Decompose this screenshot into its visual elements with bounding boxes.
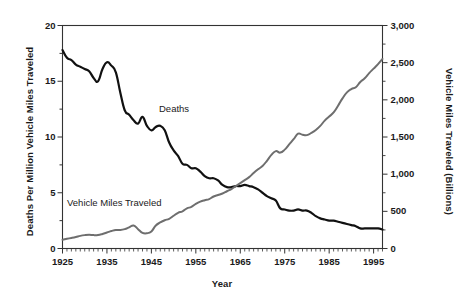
x-tick-1935: 1935	[87, 256, 127, 267]
y-right-tick-1000: 1,000	[391, 168, 431, 179]
x-tick-1995: 1995	[354, 256, 394, 267]
x-tick-1985: 1985	[309, 256, 349, 267]
y-left-tick-20: 20	[22, 20, 56, 31]
x-tick-1975: 1975	[265, 256, 305, 267]
y-left-tick-10: 10	[22, 131, 56, 142]
series-line-deaths	[63, 50, 383, 230]
y-left-tick-5: 5	[22, 187, 56, 198]
y-left-tick-15: 15	[22, 75, 56, 86]
y-right-tick-1500: 1,500	[391, 131, 431, 142]
x-tick-1955: 1955	[176, 256, 216, 267]
series-line-vehicle-miles-traveled	[63, 59, 383, 240]
y-right-tick-2000: 2,000	[391, 94, 431, 105]
y-left-tick-0: 0	[22, 243, 56, 254]
chart-container: Deaths Per Million Vehicle Miles Travele…	[0, 0, 465, 303]
y-right-tick-0: 0	[391, 243, 431, 254]
axis-ticks	[58, 26, 388, 254]
axis-frame	[63, 26, 383, 249]
x-tick-1925: 1925	[43, 256, 83, 267]
y-right-tick-500: 500	[391, 205, 431, 216]
data-series	[63, 50, 383, 240]
y-right-tick-3000: 3,000	[391, 20, 431, 31]
x-tick-1965: 1965	[220, 256, 260, 267]
y-right-tick-2500: 2,500	[391, 57, 431, 68]
x-tick-1945: 1945	[131, 256, 171, 267]
